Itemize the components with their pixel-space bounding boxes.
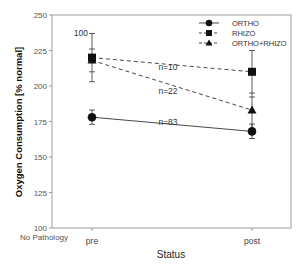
y-axis [49,15,52,228]
y-tick-label: 200 [34,82,48,91]
ortho-marker-post [248,127,257,136]
ortho-marker-pre [88,113,97,122]
annotation-n-rhizo: n=10 [158,62,177,72]
legend-ortho-rhizo: ORTHO+RHIZO [232,39,287,48]
error-bars-pre [89,34,95,125]
ortho-rhizo-marker-post [248,106,257,114]
legend-square-icon [206,30,212,36]
error-bars-post [249,51,255,139]
legend-ortho: ORTHO [232,19,259,28]
y-tick-label: 150 [34,153,48,162]
x-axis-title: Status [157,249,185,260]
legend: ORTHO RHIZO ORTHO+RHIZO [199,19,287,48]
x-tick-pre: pre [86,236,99,246]
legend-rhizo: RHIZO [232,29,255,38]
legend-circle-icon [206,20,213,27]
annotation-n-ortho-rhizo: n=22 [158,86,177,96]
x-tick-post: post [244,236,261,246]
annotation-100: 100 [74,28,88,38]
baseline-label: No Pathology [20,233,68,242]
annotation-n-ortho: n=83 [158,117,177,127]
y-tick-label: 225 [34,47,48,56]
chart: 250 225 200 175 150 125 100 No Pathology… [0,0,304,270]
y-tick-label: 175 [34,118,48,127]
y-tick-label: 250 [34,11,48,20]
y-tick-label: 125 [34,189,48,198]
legend-triangle-icon [206,40,213,46]
x-axis [92,228,252,231]
y-tick-label: 100 [34,224,48,233]
rhizo-marker-post [248,68,256,76]
y-axis-title: Oxygen Consumption [% normal] [13,47,24,197]
